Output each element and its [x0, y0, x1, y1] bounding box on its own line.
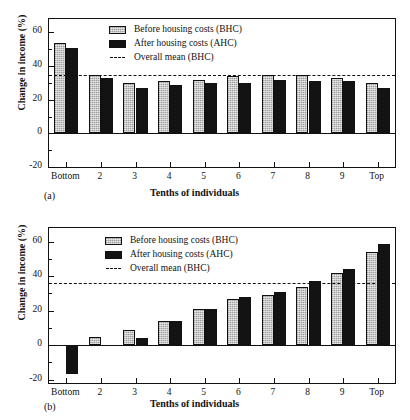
zero-baseline [49, 133, 395, 134]
x-tick-label: Top [369, 171, 384, 181]
legend-item-bhc: Before housing costs (BHC) [105, 234, 238, 247]
plot-area-a: Before housing costs (BHC) After housing… [48, 18, 396, 168]
legend-item-ahc: After housing costs (AHC) [105, 248, 238, 261]
y-tick-label: 40 [14, 269, 42, 279]
y-tick-label: 0 [14, 126, 42, 136]
legend-swatch-bhc-icon [105, 237, 122, 245]
panel-label-b: (b) [44, 401, 56, 412]
x-tick-label: 4 [167, 387, 172, 397]
x-tick-label: 6 [236, 171, 241, 181]
legend-item-bhc: Before housing costs (BHC) [109, 23, 242, 36]
legend-label-mean: Overall mean (BHC) [134, 52, 214, 63]
y-tick-major [49, 167, 54, 168]
y-tick-label: 40 [14, 59, 42, 69]
plot-area-b: Before housing costs (BHC) After housing… [48, 227, 396, 384]
x-axis-label-b: Tenths of individuals [150, 398, 239, 409]
x-tick-label: 4 [167, 171, 172, 181]
legend-label-mean: Overall mean (BHC) [130, 263, 210, 274]
legend-item-ahc: After housing costs (AHC) [109, 37, 242, 50]
overall-mean-line [49, 75, 395, 76]
x-tick-label: 9 [340, 171, 345, 181]
chart-panel-a: Change in income (%) Tenths of individua… [0, 0, 410, 205]
y-tick-label: 60 [14, 235, 42, 245]
zero-baseline [49, 345, 395, 346]
legend-swatch-dashed-line-icon [109, 54, 126, 62]
x-tick-label: 3 [132, 387, 137, 397]
legend-swatch-bhc-icon [109, 26, 126, 34]
x-tick-label: 6 [236, 387, 241, 397]
x-tick-label: 8 [305, 171, 310, 181]
x-tick-label: 5 [201, 171, 206, 181]
overall-mean-line [49, 283, 395, 284]
chart-panel-b: Change in income (%) Tenths of individua… [0, 205, 410, 420]
x-tick-label: Top [369, 387, 384, 397]
x-tick-label: 7 [271, 387, 276, 397]
x-tick-label: Bottom [51, 387, 80, 397]
legend-label-bhc: Before housing costs (BHC) [134, 24, 242, 35]
legend-swatch-ahc-icon [109, 40, 126, 48]
legend-label-ahc: After housing costs (AHC) [130, 249, 233, 260]
x-tick-label: 2 [98, 387, 103, 397]
x-tick-label: 5 [201, 387, 206, 397]
legend-item-mean: Overall mean (BHC) [109, 51, 242, 64]
y-tick-label: -20 [14, 373, 42, 383]
legend-b: Before housing costs (BHC) After housing… [105, 234, 238, 276]
legend-item-mean: Overall mean (BHC) [105, 262, 238, 275]
x-axis-label-a: Tenths of individuals [150, 187, 239, 198]
x-tick-label: 7 [271, 171, 276, 181]
legend-label-bhc: Before housing costs (BHC) [130, 235, 238, 246]
y-tick-label: 60 [14, 25, 42, 35]
panel-label-a: (a) [44, 190, 55, 201]
legend-label-ahc: After housing costs (AHC) [134, 38, 237, 49]
x-tick-label: 9 [340, 387, 345, 397]
x-tick-label: 3 [132, 171, 137, 181]
y-tick-label: -20 [14, 160, 42, 170]
y-tick-label: 0 [14, 338, 42, 348]
x-tick-label: Bottom [51, 171, 80, 181]
y-tick-label: 20 [14, 304, 42, 314]
y-tick-label: 20 [14, 93, 42, 103]
legend-swatch-dashed-line-icon [105, 265, 122, 273]
legend-a: Before housing costs (BHC) After housing… [109, 23, 242, 65]
x-tick-label: 8 [305, 387, 310, 397]
legend-swatch-ahc-icon [105, 251, 122, 259]
x-tick-label: 2 [98, 171, 103, 181]
